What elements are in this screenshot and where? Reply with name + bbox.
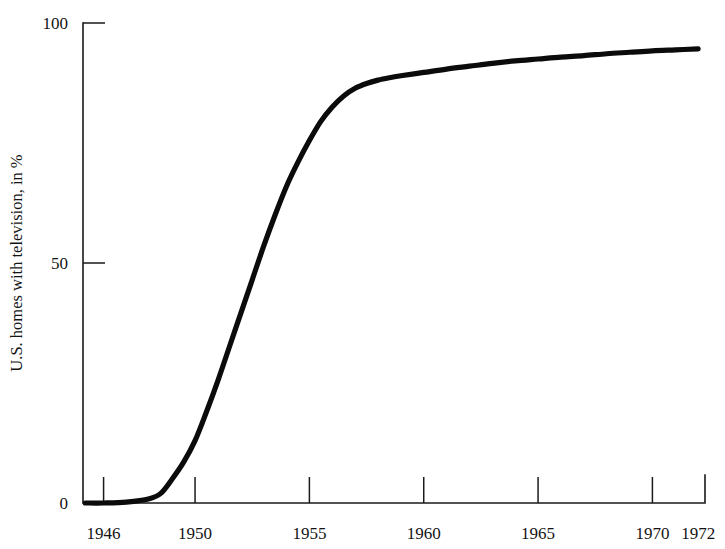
x-tick-label-1955: 1955 (292, 524, 326, 543)
x-tick-label-1970: 1970 (635, 524, 669, 543)
x-tick-label-1972: 1972 (681, 524, 715, 543)
line-chart: 1946195019551960196519701972 050100 U.S.… (0, 0, 725, 549)
x-axis-ticks (104, 477, 653, 503)
y-tick-label-50: 50 (51, 254, 68, 273)
axis-lines (83, 23, 705, 503)
x-tick-label-1946: 1946 (87, 524, 121, 543)
y-tick-label-100: 100 (43, 14, 69, 33)
y-tick-label-0: 0 (60, 494, 69, 513)
x-tick-label-1950: 1950 (178, 524, 212, 543)
x-axis-tick-labels: 1946195019551960196519701972 (87, 524, 716, 543)
axes-group (83, 23, 705, 503)
series-line-television (85, 49, 698, 503)
x-tick-label-1960: 1960 (407, 524, 441, 543)
x-tick-label-1965: 1965 (521, 524, 555, 543)
chart-page: 1946195019551960196519701972 050100 U.S.… (0, 0, 725, 549)
y-axis-tick-labels: 050100 (43, 14, 69, 513)
y-axis-ticks (83, 23, 105, 263)
y-axis-title: U.S. homes with television, in % (7, 154, 26, 371)
